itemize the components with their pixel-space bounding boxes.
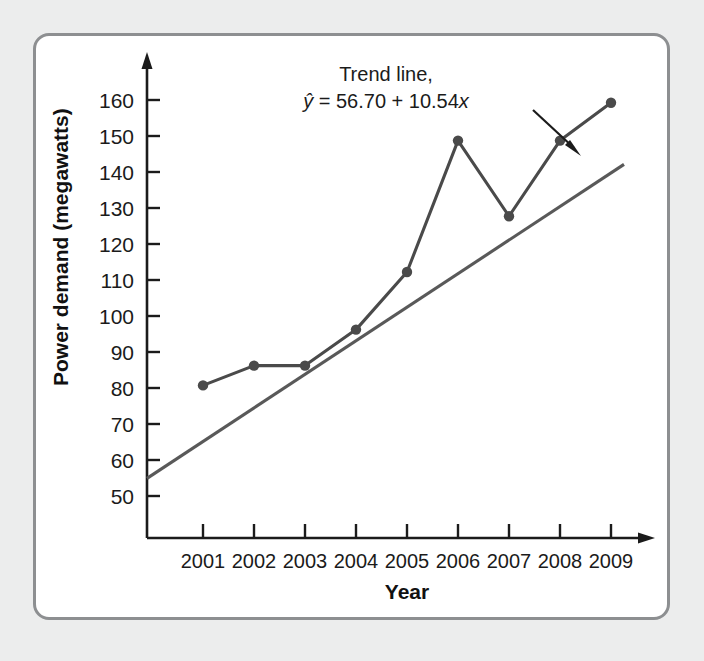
x-tick-label: 2008 bbox=[538, 550, 583, 572]
data-point-2009 bbox=[606, 98, 616, 108]
data-series-line bbox=[203, 103, 611, 386]
x-tick-label: 2002 bbox=[232, 550, 277, 572]
trend-annotation-xvar: x bbox=[458, 90, 470, 112]
x-axis-ticks bbox=[203, 524, 611, 538]
y-tick-label: 140 bbox=[99, 161, 134, 184]
y-axis-tick-labels: 160 150 140 130 120 110 100 90 80 70 60 … bbox=[99, 89, 134, 508]
y-tick-label: 160 bbox=[99, 89, 134, 112]
data-point-2001 bbox=[198, 380, 208, 390]
figure-panel: 160 150 140 130 120 110 100 90 80 70 60 … bbox=[33, 33, 670, 620]
trend-line-annotation: Trend line, ŷ = 56.70 + 10.54x bbox=[301, 63, 581, 156]
trend-annotation-equation: ŷ = 56.70 + 10.54x bbox=[301, 90, 470, 112]
data-point-2004 bbox=[351, 324, 361, 334]
y-tick-label: 70 bbox=[111, 413, 134, 436]
data-point-2005 bbox=[402, 267, 412, 277]
x-tick-label: 2003 bbox=[283, 550, 328, 572]
x-tick-label: 2009 bbox=[589, 550, 634, 572]
annotation-arrow bbox=[533, 110, 581, 156]
x-tick-label: 2001 bbox=[181, 550, 226, 572]
trend-annotation-line1: Trend line, bbox=[339, 63, 433, 85]
x-axis-title: Year bbox=[385, 580, 429, 603]
power-demand-trend-chart: 160 150 140 130 120 110 100 90 80 70 60 … bbox=[36, 36, 667, 617]
data-point-2006 bbox=[453, 135, 463, 145]
data-point-2007 bbox=[504, 211, 514, 221]
y-tick-label: 100 bbox=[99, 305, 134, 328]
trend-line bbox=[147, 164, 624, 478]
data-point-2003 bbox=[300, 360, 310, 370]
x-tick-label: 2005 bbox=[385, 550, 430, 572]
x-axis-tick-labels: 2001 2002 2003 2004 2005 2006 2007 2008 … bbox=[181, 550, 634, 572]
trend-annotation-rhs: = 56.70 + 10.54 bbox=[313, 90, 459, 112]
x-axis bbox=[147, 533, 655, 544]
x-tick-label: 2007 bbox=[487, 550, 532, 572]
y-tick-label: 90 bbox=[111, 341, 134, 364]
y-tick-label: 120 bbox=[99, 233, 134, 256]
y-tick-label: 150 bbox=[99, 125, 134, 148]
data-point-2002 bbox=[249, 360, 259, 370]
data-point-markers bbox=[198, 98, 616, 391]
y-tick-label: 110 bbox=[101, 269, 134, 292]
x-tick-label: 2006 bbox=[436, 550, 481, 572]
x-tick-label: 2004 bbox=[334, 550, 379, 572]
y-tick-label: 130 bbox=[99, 197, 134, 220]
y-tick-label: 50 bbox=[111, 485, 134, 508]
y-axis-ticks bbox=[147, 100, 160, 496]
y-axis-title: Power demand (megawatts) bbox=[49, 108, 72, 386]
y-tick-label: 80 bbox=[111, 377, 134, 400]
y-tick-label: 60 bbox=[111, 449, 134, 472]
y-axis bbox=[142, 52, 153, 538]
